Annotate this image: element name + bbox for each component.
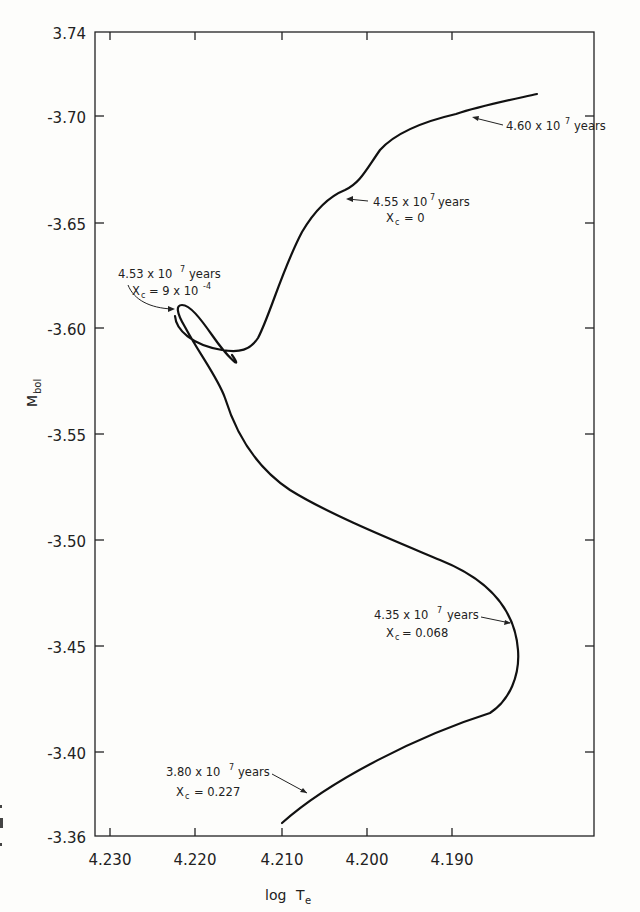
svg-text:7: 7 <box>430 193 435 202</box>
y-tick-label: -3.65 <box>47 216 86 234</box>
svg-text:3.80 x 10: 3.80 x 10 <box>166 765 220 779</box>
svg-text:c: c <box>395 633 399 642</box>
svg-text:7: 7 <box>565 117 570 126</box>
svg-text:X: X <box>386 626 394 640</box>
svg-text:-4: -4 <box>203 282 211 291</box>
svg-text:years: years <box>238 765 270 779</box>
svg-text:years: years <box>574 119 606 133</box>
svg-text:M: M <box>24 395 40 407</box>
annotation-453: 4.53 x 10 7 years X c = 9 x 10 -4 <box>118 265 221 312</box>
svg-text:e: e <box>305 895 311 906</box>
svg-text:= 0.068: = 0.068 <box>402 626 448 640</box>
svg-text:4.60 x 10: 4.60 x 10 <box>506 119 560 133</box>
svg-text:4.53 x 10: 4.53 x 10 <box>118 267 172 281</box>
svg-text:4.35 x 10: 4.35 x 10 <box>374 608 428 622</box>
x-tick-label: 4.220 <box>174 851 217 869</box>
annotation-435: 4.35 x 10 7 years X c = 0.068 <box>374 606 511 642</box>
svg-text:c: c <box>185 792 189 801</box>
annotation-455: 4.55 x 10 7 years X c = 0 <box>346 193 470 227</box>
svg-text:= 9 x 10: = 9 x 10 <box>149 284 198 298</box>
svg-text:= 0: = 0 <box>404 211 425 225</box>
evolutionary-track-line <box>175 94 537 823</box>
svg-text:7: 7 <box>229 763 234 772</box>
x-tick-label: 4.190 <box>431 851 474 869</box>
y-tick-label: -3.50 <box>47 533 86 551</box>
y-tick-label: -3.55 <box>47 427 86 445</box>
svg-text:c: c <box>395 218 399 227</box>
x-ticks <box>110 32 452 836</box>
svg-text:X: X <box>176 785 184 799</box>
svg-text:= 0.227: = 0.227 <box>194 785 240 799</box>
svg-text:7: 7 <box>180 265 185 274</box>
y-axis-title: M bol <box>24 379 43 407</box>
y-tick-label: -3.60 <box>47 321 86 339</box>
y-tick-label: -3.40 <box>47 745 86 763</box>
svg-text:years: years <box>189 267 221 281</box>
margin-marks <box>0 805 3 846</box>
y-tick-label: -3.45 <box>47 639 86 657</box>
y-tick-label: -3.36 <box>47 829 86 847</box>
svg-text:log: log <box>265 887 286 903</box>
x-tick-label: 4.210 <box>261 851 304 869</box>
svg-text:X: X <box>132 284 140 298</box>
svg-text:4.55 x 10: 4.55 x 10 <box>373 195 427 209</box>
x-tick-label: 4.230 <box>89 851 132 869</box>
x-tick-label: 4.200 <box>346 851 389 869</box>
svg-text:X: X <box>386 211 394 225</box>
hr-diagram-chart: 4.230 4.220 4.210 4.200 4.190 3.74 -3.70… <box>0 0 640 912</box>
y-tick-label: -3.70 <box>47 109 86 127</box>
y-tick-label: 3.74 <box>53 25 86 43</box>
plot-frame <box>95 32 594 836</box>
svg-text:years: years <box>438 195 470 209</box>
annotation-380: 3.80 x 10 7 years X c = 0.227 <box>166 763 307 801</box>
svg-text:7: 7 <box>437 606 442 615</box>
annotation-460: 4.60 x 10 7 years <box>472 116 606 133</box>
x-axis-title: log T e <box>265 887 311 906</box>
svg-text:years: years <box>447 608 479 622</box>
svg-text:T: T <box>295 887 305 903</box>
svg-text:bol: bol <box>32 379 43 394</box>
svg-text:c: c <box>141 291 145 300</box>
